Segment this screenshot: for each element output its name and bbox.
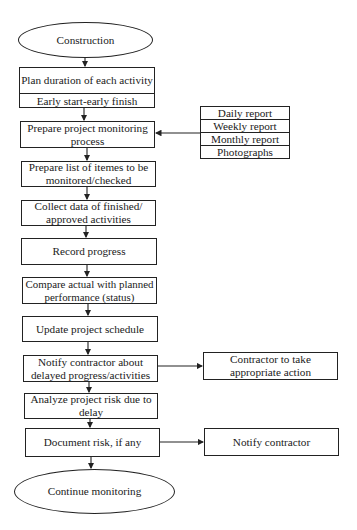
step-analyze-risk: Analyze project risk due to delay: [24, 393, 158, 419]
step-update-schedule: Update project schedule: [22, 316, 158, 342]
step-compare-actual-planned: Compare actual with planned performance …: [22, 277, 157, 304]
input-monthly-report: Monthly report: [201, 132, 289, 145]
end-node-continue-monitoring: Continue monitoring: [14, 469, 175, 514]
plan-duration-box: Plan duration of each activity Early sta…: [19, 67, 155, 108]
step-prepare-monitoring-process: Prepare project monitoring process: [20, 121, 155, 148]
input-daily-report: Daily report: [201, 107, 289, 119]
plan-duration-title: Plan duration of each activity: [20, 68, 154, 93]
output-contractor-action: Contractor to take appropriate action: [203, 352, 338, 380]
step-prepare-monitor-list: Prepare list of itemes to be monitored/c…: [21, 161, 156, 187]
report-inputs-box: Daily report Weekly report Monthly repor…: [200, 106, 290, 159]
plan-early-start-finish: Early start-early finish: [20, 93, 154, 107]
input-weekly-report: Weekly report: [201, 119, 289, 132]
step-document-risk: Document risk, if any: [25, 428, 160, 457]
input-photographs: Photographs: [201, 145, 289, 158]
start-node-construction: Construction: [18, 22, 153, 58]
step-collect-data: Collect data of finished/ approved activ…: [21, 200, 156, 226]
step-notify-contractor-delay: Notify contractor about delayed progress…: [23, 355, 158, 382]
step-record-progress: Record progress: [21, 238, 157, 265]
output-notify-contractor: Notify contractor: [204, 428, 339, 456]
